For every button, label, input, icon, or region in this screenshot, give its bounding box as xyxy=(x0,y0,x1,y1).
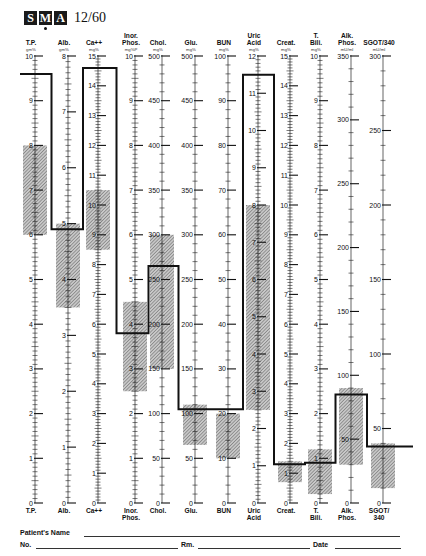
tick-label: 40 xyxy=(218,321,226,328)
tick-label: 6 xyxy=(92,321,96,328)
tick-label: 500 xyxy=(181,53,193,60)
number-field[interactable] xyxy=(36,548,178,549)
column-unit: gm% xyxy=(26,47,36,52)
tick-label: 2 xyxy=(92,440,96,447)
column-header: BUN xyxy=(217,39,232,46)
tick-label: 250 xyxy=(148,276,160,283)
tick-label: 12 xyxy=(280,142,288,149)
tick-label: 4 xyxy=(62,276,66,283)
tick-label: 70 xyxy=(218,187,226,194)
column-header: Glu. xyxy=(185,39,198,46)
tick-label: 8 xyxy=(92,261,96,268)
tick-label: 200 xyxy=(181,321,193,328)
date-field[interactable] xyxy=(335,548,401,549)
tick-label: 6 xyxy=(129,231,133,238)
tick-label: 15 xyxy=(280,53,288,60)
tick-label: 13 xyxy=(88,112,96,119)
tick-label: 10 xyxy=(88,202,96,209)
scale-0: 012345678910 xyxy=(25,53,43,507)
tick-label: 1 xyxy=(284,470,288,477)
tick-label: 150 xyxy=(369,276,381,283)
tick-label: 9 xyxy=(129,97,133,104)
column-footer: Alb. xyxy=(58,507,71,514)
normal-range-bands xyxy=(23,145,395,494)
column-footer: Uric xyxy=(248,507,261,514)
column-header: T. xyxy=(313,32,318,39)
tick-label: 400 xyxy=(181,142,193,149)
tick-label: 250 xyxy=(181,276,193,283)
tick-label: 3 xyxy=(252,388,256,395)
tick-label: 0 xyxy=(62,500,66,507)
column-header: Bili. xyxy=(310,39,322,46)
tick-label: 10 xyxy=(25,53,33,60)
patient-name-field[interactable] xyxy=(84,536,400,537)
tick-label: 3 xyxy=(92,410,96,417)
tick-label: 11 xyxy=(281,172,288,179)
room-field[interactable] xyxy=(198,548,310,549)
tick-label: 5 xyxy=(314,276,318,283)
tick-label: 200 xyxy=(148,321,160,328)
tick-label: 300 xyxy=(148,231,160,238)
tick-label: 4 xyxy=(314,321,318,328)
column-footer: Acid xyxy=(247,514,261,521)
tick-label: 100 xyxy=(337,372,349,379)
tick-label: 8 xyxy=(252,202,256,209)
tick-label: 7 xyxy=(92,291,96,298)
column-footer: Bili. xyxy=(310,514,322,521)
column-header: Alb. xyxy=(58,39,71,46)
tick-label: 0 xyxy=(92,500,96,507)
scale-1: 012345678 xyxy=(62,53,76,507)
tick-label: 9 xyxy=(92,231,96,238)
tick-label: 4 xyxy=(29,321,33,328)
column-footer: BUN xyxy=(217,507,232,514)
tick-label: 50 xyxy=(185,455,193,462)
tick-label: 250 xyxy=(369,127,381,134)
tick-label: 150 xyxy=(181,365,193,372)
scale-4: 050100150200250300350400450500 xyxy=(148,53,170,507)
tick-label: 100 xyxy=(181,410,193,417)
tick-label: 9 xyxy=(314,97,318,104)
column-unit: mU/ml xyxy=(373,47,385,52)
column-header: Uric xyxy=(248,32,261,39)
tick-label: 300 xyxy=(369,53,381,60)
column-header: Phos. xyxy=(122,39,140,46)
scale-11: 050100150200250300 xyxy=(369,53,391,507)
tick-label: 11 xyxy=(249,90,256,97)
tick-label: 350 xyxy=(148,187,160,194)
tick-label: 50 xyxy=(218,276,226,283)
tick-label: 450 xyxy=(181,97,193,104)
column-header: Creat. xyxy=(277,39,296,46)
column-unit: mg% xyxy=(89,47,99,52)
column-footer: Chol. xyxy=(150,507,167,514)
column-unit: gm% xyxy=(59,47,69,52)
tick-label: 5 xyxy=(252,313,256,320)
column-footer: Alk. xyxy=(341,507,353,514)
tick-label: 500 xyxy=(148,53,160,60)
column-footer: T. xyxy=(313,507,318,514)
tick-label: 15 xyxy=(88,53,96,60)
tick-label: 4 xyxy=(284,380,288,387)
tick-label: 10 xyxy=(248,127,256,134)
scale-8: 0123456789101112131415 xyxy=(280,53,298,507)
tick-label: 7 xyxy=(62,108,66,115)
tick-label: 10 xyxy=(125,53,133,60)
tick-label: 80 xyxy=(218,142,226,149)
tick-label: 50 xyxy=(373,425,381,432)
tick-label: 10 xyxy=(218,455,226,462)
tick-label: 150 xyxy=(148,365,160,372)
tick-label: 6 xyxy=(252,276,256,283)
tick-label: 10 xyxy=(310,53,318,60)
column-unit: mg% xyxy=(311,47,321,52)
tick-label: 12 xyxy=(248,53,256,60)
column-footer: Glu. xyxy=(185,507,198,514)
tick-label: 1 xyxy=(29,455,33,462)
column-unit: mg%P xyxy=(125,47,138,52)
tick-label: 150 xyxy=(337,308,349,315)
column-header: Phos. xyxy=(338,39,356,46)
tick-label: 7 xyxy=(314,187,318,194)
tick-label: 6 xyxy=(314,231,318,238)
tick-label: 2 xyxy=(252,425,256,432)
column-unit: mg% xyxy=(281,47,291,52)
tick-label: 200 xyxy=(337,244,349,251)
tick-label: 450 xyxy=(148,97,160,104)
